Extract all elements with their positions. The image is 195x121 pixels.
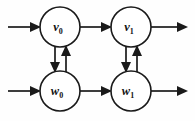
- directed-graph: v0 v1 w0 w1: [0, 0, 195, 121]
- node-w1[interactable]: w1: [111, 71, 151, 111]
- edge-incoming-v0: [8, 22, 41, 32]
- node-v0[interactable]: v0: [40, 7, 80, 47]
- node-v1[interactable]: v1: [111, 7, 151, 47]
- edge-w0-to-w1: [80, 86, 112, 96]
- node-v1-subscript: 1: [130, 26, 134, 35]
- edge-outgoing-w1: [151, 86, 188, 96]
- diagram-canvas: v0 v1 w0 w1: [0, 0, 195, 121]
- edge-outgoing-v1: [151, 22, 188, 32]
- arrowhead-icon: [177, 22, 188, 32]
- edge-w0-to-v0: [61, 45, 71, 72]
- edge-incoming-w0: [8, 86, 41, 96]
- node-w0[interactable]: w0: [40, 71, 80, 111]
- arrowhead-icon: [177, 86, 188, 96]
- node-v0-subscript: 0: [59, 26, 63, 35]
- edge-v0-to-w0: [50, 46, 60, 73]
- node-w1-subscript: 1: [130, 90, 134, 99]
- edge-v1-to-w1: [121, 46, 131, 73]
- node-w0-subscript: 0: [59, 90, 63, 99]
- edge-w1-to-v1: [132, 45, 142, 72]
- edge-v0-to-v1: [80, 22, 112, 32]
